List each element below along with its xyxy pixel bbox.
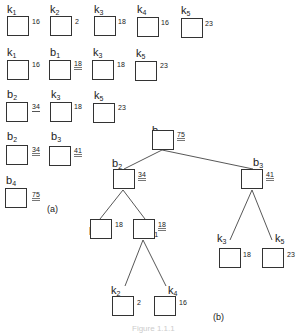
part-b-label: (b) <box>213 312 224 322</box>
weight: 23 <box>287 251 295 258</box>
label-b4: b4 <box>6 175 16 189</box>
node-b2 <box>6 145 28 165</box>
node-k5 <box>135 61 157 81</box>
weight: 16 <box>32 18 40 25</box>
weight: 2 <box>75 18 79 25</box>
weight: 18 <box>118 18 126 25</box>
weight: 2 <box>137 299 141 306</box>
weight: 18 <box>74 103 82 110</box>
label-k3: k3 <box>51 89 60 103</box>
label-k5: k5 <box>275 233 284 247</box>
weight: 18 <box>115 221 123 228</box>
weight: 41 <box>266 171 274 181</box>
node-k4 <box>154 296 176 316</box>
label-b2: b2 <box>7 89 17 103</box>
node-k3 <box>94 16 116 36</box>
weight: 16 <box>32 61 40 68</box>
node-k5 <box>181 18 203 38</box>
node-b3 <box>241 169 263 189</box>
label-b3: b3 <box>51 131 61 145</box>
weight: 34 <box>32 146 40 156</box>
weight: 41 <box>74 147 82 157</box>
label-k1: k1 <box>7 47 16 61</box>
node-b4 <box>5 188 27 208</box>
node-b2 <box>6 102 28 122</box>
label-k4: k4 <box>137 4 146 18</box>
node-k5 <box>93 103 115 123</box>
tree-edges <box>0 0 296 334</box>
weight: 34 <box>138 171 146 181</box>
weight: 16 <box>161 19 169 26</box>
node-k1 <box>7 16 29 36</box>
weight: 23 <box>118 104 126 111</box>
weight: 18 <box>74 60 82 70</box>
weight: 16 <box>179 299 187 306</box>
weight: 23 <box>205 20 213 27</box>
weight: 23 <box>160 62 168 69</box>
huffman-tree-figure: k1 16 k2 2 k3 18 k4 16 k5 23 k1 16 b1 18… <box>0 0 296 334</box>
node-k5 <box>262 248 284 268</box>
weight: 34 <box>32 103 40 112</box>
weight: 18 <box>117 61 125 68</box>
label-k3: k3 <box>217 233 226 247</box>
weight: 18 <box>243 251 251 258</box>
node-k3 <box>219 248 241 268</box>
label-k3: k3 <box>93 47 102 61</box>
part-a-label: (a) <box>47 204 58 214</box>
label-b2: b2 <box>7 131 17 145</box>
node-b4 <box>152 130 174 150</box>
node-k3 <box>92 60 114 80</box>
node-k2 <box>50 16 72 36</box>
node-k4 <box>137 17 159 37</box>
label-k5: k5 <box>181 5 190 19</box>
node-k1 <box>90 219 112 239</box>
node-b1 <box>133 219 155 239</box>
node-k2 <box>112 296 134 316</box>
weight: 75 <box>177 131 185 141</box>
label-b1: b1 <box>50 47 60 61</box>
node-b1 <box>49 60 71 80</box>
weight: 18 <box>158 221 166 231</box>
node-b2 <box>113 169 135 189</box>
node-b3 <box>49 146 71 166</box>
figure-caption: Figure 1.1.1 <box>132 324 175 333</box>
label-k5: k5 <box>136 48 145 62</box>
weight: 75 <box>32 191 40 201</box>
node-k1 <box>7 60 29 80</box>
label-k5: k5 <box>94 90 103 104</box>
node-k3 <box>50 102 72 122</box>
